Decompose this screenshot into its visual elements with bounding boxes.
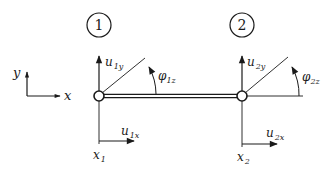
u1y-label: u1y — [105, 55, 124, 71]
u2x-label: u2x — [266, 126, 285, 142]
node-1-id-label: 1 — [95, 17, 104, 33]
x-axis-label: x — [64, 88, 72, 103]
beam-element-diagram: y x 1 u1y φ1z u1x x1 2 u2y φ2z — [0, 0, 330, 170]
node-2-hinge-icon — [237, 91, 247, 101]
phi2-label: φ2z — [302, 70, 320, 86]
beam — [104, 94, 237, 97]
global-axes: y x — [12, 65, 72, 103]
y-axis-label: y — [12, 65, 21, 80]
node-1-hinge-icon — [94, 91, 104, 101]
node-2-id-label: 2 — [238, 17, 247, 33]
x1-label: x1 — [93, 148, 106, 164]
u2y-label: u2y — [247, 55, 266, 71]
phi1-label: φ1z — [158, 69, 176, 85]
phi1-rotation-arrow-icon — [149, 67, 156, 94]
node-2: 2 u2y φ2z u2x x2 — [230, 13, 320, 166]
x2-label: x2 — [237, 150, 250, 166]
phi2-rotation-arrow-icon — [292, 67, 299, 96]
node-1: 1 u1y φ1z u1x x1 — [87, 13, 176, 164]
u1x-label: u1x — [121, 124, 140, 140]
